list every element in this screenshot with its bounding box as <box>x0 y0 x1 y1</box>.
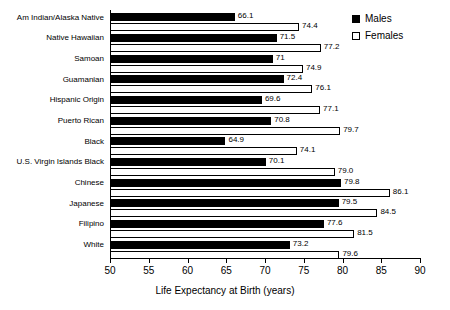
chart-legend: MalesFemales <box>352 14 403 48</box>
bar-value-male: 66.1 <box>238 12 254 20</box>
bar-female <box>110 251 339 259</box>
x-axis-tick-label: 75 <box>289 265 319 276</box>
bar-male <box>110 117 271 125</box>
bar-value-male: 79.8 <box>344 178 360 186</box>
bar-value-female: 79.7 <box>343 126 359 134</box>
bar-female <box>110 85 312 93</box>
bar-male <box>110 13 235 21</box>
bar-value-female: 84.5 <box>380 208 396 216</box>
category-label: Black <box>84 137 104 146</box>
bar-male <box>110 158 266 166</box>
bar-female <box>110 65 303 73</box>
bar-value-male: 77.6 <box>327 219 343 227</box>
x-axis-tick <box>265 259 266 263</box>
bar-male <box>110 96 262 104</box>
x-axis-tick <box>304 259 305 263</box>
x-axis-tick <box>420 259 421 263</box>
category-label: Filipino <box>79 219 104 228</box>
bar-value-female: 74.9 <box>306 64 322 72</box>
bar-value-male: 73.2 <box>293 240 309 248</box>
bar-female <box>110 44 321 52</box>
bar-value-male: 70.8 <box>274 116 290 124</box>
x-axis-tick <box>343 259 344 263</box>
x-axis-tick <box>381 259 382 263</box>
bar-male <box>110 34 277 42</box>
category-axis-labels: Am Indian/Alaska NativeNative HawaiianSa… <box>0 10 107 258</box>
category-label: Am Indian/Alaska Native <box>17 13 104 22</box>
x-axis-tick-label: 90 <box>405 265 435 276</box>
bar-male <box>110 137 225 145</box>
x-axis-tick <box>188 259 189 263</box>
bar-value-male: 69.6 <box>265 95 281 103</box>
bar-male <box>110 199 339 207</box>
x-axis-tick <box>110 259 111 263</box>
bar-male <box>110 55 273 63</box>
x-axis-tick <box>149 259 150 263</box>
life-expectancy-bar-chart: Am Indian/Alaska NativeNative HawaiianSa… <box>0 0 450 310</box>
bar-value-male: 79.5 <box>342 198 358 206</box>
bar-value-female: 81.5 <box>357 229 373 237</box>
x-axis-tick-label: 60 <box>173 265 203 276</box>
category-label: Hispanic Origin <box>50 95 104 104</box>
bar-value-male: 64.9 <box>228 136 244 144</box>
bar-female <box>110 127 340 135</box>
bar-male <box>110 220 324 228</box>
x-axis-tick <box>226 259 227 263</box>
bar-male <box>110 179 341 187</box>
legend-item-label: Females <box>365 31 403 41</box>
bar-male <box>110 75 284 83</box>
bar-female <box>110 189 390 197</box>
category-label: U.S. Virgin Islands Black <box>17 157 104 166</box>
bar-female <box>110 230 354 238</box>
bar-value-male: 72.4 <box>287 74 303 82</box>
bar-value-female: 74.1 <box>300 146 316 154</box>
hollow-square-icon <box>352 32 360 40</box>
category-label: Japanese <box>69 199 104 208</box>
bar-value-female: 77.2 <box>324 43 340 51</box>
bar-value-female: 86.1 <box>393 188 409 196</box>
legend-item-label: Males <box>365 14 392 24</box>
bar-value-female: 79.6 <box>342 250 358 258</box>
x-axis-tick-label: 65 <box>211 265 241 276</box>
bar-value-female: 74.4 <box>302 22 318 30</box>
category-label: Samoan <box>74 54 104 63</box>
x-axis-tick-label: 55 <box>134 265 164 276</box>
x-axis-tick-label: 80 <box>328 265 358 276</box>
bar-female <box>110 147 297 155</box>
bar-male <box>110 241 290 249</box>
bar-value-male: 70.1 <box>269 157 285 165</box>
bar-value-female: 76.1 <box>315 84 331 92</box>
bar-female <box>110 23 299 31</box>
x-axis-tick-label: 50 <box>95 265 125 276</box>
bar-female <box>110 209 377 217</box>
bar-value-female: 79.0 <box>338 167 354 175</box>
bar-female <box>110 106 320 114</box>
category-label: Chinese <box>75 178 104 187</box>
category-label: Guamanian <box>63 75 104 84</box>
legend-item: Males <box>352 14 403 24</box>
category-label: Native Hawaiian <box>46 33 104 42</box>
x-axis-title: Life Expectancy at Birth (years) <box>0 285 450 296</box>
category-label: White <box>84 240 104 249</box>
bar-value-male: 71.5 <box>280 33 296 41</box>
bar-female <box>110 168 335 176</box>
x-axis-tick-label: 70 <box>250 265 280 276</box>
legend-item: Females <box>352 31 403 41</box>
category-label: Puerto Rican <box>58 116 104 125</box>
bar-value-male: 71 <box>276 54 285 62</box>
x-axis-tick-label: 85 <box>366 265 396 276</box>
bar-value-female: 77.1 <box>323 105 339 113</box>
filled-square-icon <box>352 15 360 23</box>
